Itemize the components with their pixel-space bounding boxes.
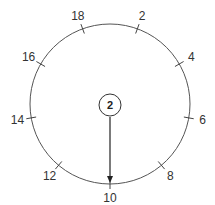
tick-mark-8 xyxy=(158,161,164,169)
tick-label-12: 12 xyxy=(43,169,57,183)
tick-label-8: 8 xyxy=(167,169,174,183)
tick-label-6: 6 xyxy=(199,113,206,127)
pointer-arrow-head xyxy=(107,176,113,183)
dial-diagram: 24681012141618 2 xyxy=(0,0,215,205)
tick-label-14: 14 xyxy=(11,113,25,127)
tick-label-18: 18 xyxy=(71,9,85,23)
tick-label-2: 2 xyxy=(139,9,146,23)
tick-mark-12 xyxy=(55,161,61,169)
tick-mark-16 xyxy=(36,62,45,67)
tick-label-4: 4 xyxy=(188,50,195,64)
hub-label: 2 xyxy=(107,99,113,111)
tick-mark-4 xyxy=(175,62,184,67)
tick-label-16: 16 xyxy=(22,50,36,64)
tick-label-10: 10 xyxy=(103,191,117,205)
